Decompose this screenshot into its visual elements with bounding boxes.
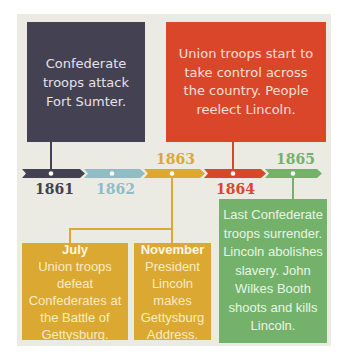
event-1865-text: Last Confederate troops surrender. Linco… xyxy=(222,206,324,336)
dot-1863 xyxy=(170,171,175,176)
year-label-1864: 1864 xyxy=(216,181,255,197)
year-label-1862: 1862 xyxy=(96,181,135,197)
event-1863-july-box: July Union troops defeat Confederates at… xyxy=(22,243,128,340)
dot-1865 xyxy=(291,171,296,176)
segment-1862 xyxy=(84,169,145,178)
dot-1861 xyxy=(49,171,54,176)
year-label-1861: 1861 xyxy=(35,181,74,197)
event-july-text: Union troops defeat Confederates at the … xyxy=(24,258,126,343)
event-1863-november-box: November President Lincoln makes Gettysb… xyxy=(134,243,211,340)
segment-1861 xyxy=(22,169,85,178)
dot-1862 xyxy=(110,171,115,176)
segment-1863 xyxy=(144,169,205,178)
dot-1864 xyxy=(231,171,236,176)
event-november-month: November xyxy=(141,241,205,258)
event-1865-box: Last Confederate troops surrender. Linco… xyxy=(219,199,327,343)
event-july-month: July xyxy=(62,241,88,258)
year-label-1863: 1863 xyxy=(156,151,195,167)
year-label-1865: 1865 xyxy=(276,151,315,167)
event-november-text: President Lincoln makes Gettysburg Addre… xyxy=(136,258,209,343)
